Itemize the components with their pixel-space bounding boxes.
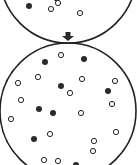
open-particle: [41, 157, 46, 162]
filled-particle: [73, 162, 79, 165]
open-particle: [55, 158, 60, 163]
particle-diagram: [0, 0, 137, 165]
open-particle: [15, 80, 20, 85]
bottom-sample-circle: [0, 43, 136, 165]
filled-particle: [81, 56, 87, 62]
open-particle: [58, 52, 63, 57]
filled-particle: [31, 136, 37, 142]
open-particle: [112, 78, 117, 83]
filled-particle: [36, 106, 42, 112]
open-particle: [79, 76, 84, 81]
filled-particle: [50, 110, 56, 116]
open-particle: [8, 116, 13, 121]
filled-particle: [26, 3, 32, 9]
open-particle: [55, 0, 60, 5]
open-particle: [91, 138, 96, 143]
open-particle: [78, 110, 83, 115]
open-particle: [113, 129, 118, 134]
filled-particle: [42, 59, 48, 65]
down-arrow-icon: [62, 32, 74, 41]
open-particle: [35, 74, 40, 79]
open-particle: [48, 6, 53, 11]
bottom-circle-outline: [0, 43, 136, 165]
open-particle: [47, 131, 52, 136]
open-particle: [77, 10, 82, 15]
open-particle: [18, 97, 23, 102]
open-particle: [90, 148, 95, 153]
open-particle: [109, 101, 114, 106]
filled-particle: [105, 88, 111, 94]
filled-particle: [58, 83, 64, 89]
open-particle: [67, 90, 72, 95]
